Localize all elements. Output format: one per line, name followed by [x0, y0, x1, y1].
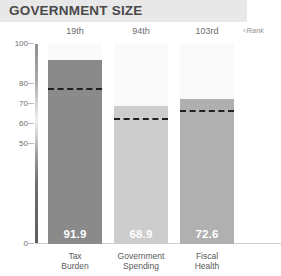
y-axis-tick-label: 100: [15, 39, 28, 48]
category-label-fiscal-health: Fiscal Health: [170, 251, 244, 271]
bar-chart: 100 80 70 60 50 0 91.9 68.9 72.6: [0, 44, 281, 276]
y-axis-tick-label: 70: [19, 99, 28, 108]
category-label-line: Health: [170, 261, 244, 271]
category-label-line: Tax: [38, 251, 112, 261]
category-label-line: Fiscal: [170, 251, 244, 261]
bar-fiscal-health[interactable]: 72.6: [180, 99, 234, 244]
y-axis-tick-label: 60: [19, 119, 28, 128]
y-axis-tick-label: 50: [19, 139, 28, 148]
title-banner: GOVERNMENT SIZE: [0, 0, 247, 22]
y-axis-tick-mark: [28, 43, 34, 44]
category-label-government-spending: Government Spending: [104, 251, 178, 271]
y-axis-tick-mark: [28, 143, 34, 144]
page-title: GOVERNMENT SIZE: [9, 3, 143, 18]
y-axis-tick-label: 80: [19, 79, 28, 88]
y-axis-spine: [35, 44, 38, 244]
category-label-tax-burden: Tax Burden: [38, 251, 112, 271]
category-label-line: Government: [104, 251, 178, 261]
y-axis-tick-mark: [28, 103, 34, 104]
bar-value-label: 72.6: [180, 228, 234, 240]
rank-annotation: ‹Rank: [243, 26, 264, 35]
rank-row: 19th 94th 103rd ‹Rank: [0, 26, 281, 40]
rank-annotation-label: Rank: [246, 26, 264, 35]
reference-line-fiscal-health: [180, 110, 234, 112]
rank-value-fiscal-health: 103rd: [174, 26, 240, 36]
chevron-left-icon: ‹: [243, 27, 245, 34]
rank-value-government-spending: 94th: [108, 26, 174, 36]
y-axis-tick-mark: [28, 123, 34, 124]
reference-line-government-spending: [114, 118, 168, 120]
reference-line-tax-burden: [48, 88, 102, 90]
y-axis-tick-mark: [28, 83, 34, 84]
bar-value-label: 68.9: [114, 228, 168, 240]
bar-value-label: 91.9: [48, 228, 102, 240]
category-label-line: Burden: [38, 261, 112, 271]
y-axis-labels: 100 80 70 60 50 0: [0, 44, 34, 249]
rank-value-tax-burden: 19th: [42, 26, 108, 36]
category-label-line: Spending: [104, 261, 178, 271]
bar-government-spending[interactable]: 68.9: [114, 106, 168, 244]
y-axis-tick-mark: [28, 243, 34, 244]
